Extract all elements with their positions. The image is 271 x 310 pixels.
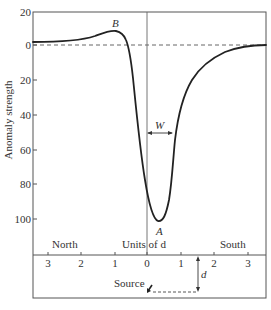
x-axis-label-text: Units of d	[122, 238, 167, 250]
x-tick-label: 3	[245, 257, 251, 269]
x-axis-label: Units of d	[122, 238, 167, 250]
north-label: North	[52, 238, 78, 250]
x-tick-label: 3	[45, 257, 51, 269]
point-a-label: A	[155, 225, 163, 237]
x-tick-label: 2	[211, 257, 217, 269]
x-tick-label: 2	[78, 257, 84, 269]
y-tick-labels: 20 0 20 40 60 80 100	[15, 6, 32, 225]
y-axis-label: Anomaly strength	[2, 80, 14, 160]
width-label: W	[155, 119, 165, 131]
y-tick-label: 60	[20, 144, 32, 156]
width-indicator	[147, 131, 173, 135]
y-axis	[33, 45, 37, 219]
y-tick-label: 20	[20, 74, 32, 86]
point-b-label: B	[112, 17, 119, 29]
x-tick-labels: 3 2 1 0 1 2 3	[45, 257, 251, 269]
y-tick-label: 80	[20, 178, 32, 190]
anomaly-curve	[33, 31, 266, 221]
source-label: Source	[114, 277, 145, 289]
x-tick-label: 1	[178, 257, 184, 269]
source-marker-icon	[147, 285, 152, 293]
south-label: South	[220, 238, 246, 250]
y-tick-label: 100	[15, 213, 32, 225]
y-tick-label: 20	[20, 6, 32, 18]
anomaly-profile-figure: 20 0 20 40 60 80 100 Anomaly strength B …	[0, 0, 271, 310]
x-tick-label: 1	[112, 257, 118, 269]
x-tick-label: 0	[144, 257, 150, 269]
y-tick-label: 40	[20, 109, 32, 121]
y-tick-label: 0	[26, 39, 32, 51]
depth-indicator	[196, 256, 200, 292]
depth-label: d	[201, 268, 207, 280]
